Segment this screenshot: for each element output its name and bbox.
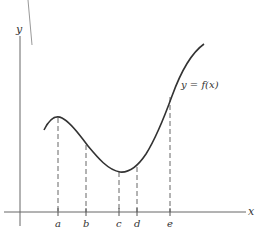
stray-line	[28, 0, 32, 45]
function-curve	[44, 44, 204, 172]
tick-label-b: b	[83, 218, 89, 229]
tick-label-c: c	[116, 218, 122, 229]
x-axis-label: x	[248, 205, 255, 218]
curve-label: y = f(x)	[180, 79, 219, 90]
dashed-guides	[58, 97, 170, 212]
y-axis-label: y	[15, 23, 23, 36]
function-graph: y x a b c d e y = f(x)	[0, 0, 261, 234]
tick-label-a: a	[55, 218, 61, 229]
tick-label-e: e	[167, 218, 173, 229]
tick-label-d: d	[134, 218, 140, 229]
